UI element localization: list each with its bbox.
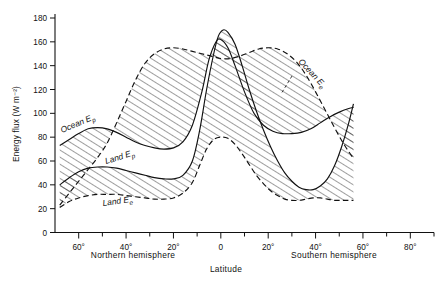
x-tick-label: 80° (404, 243, 416, 252)
y-tick-label: 20 (38, 205, 48, 214)
y-tick-label: 160 (33, 38, 47, 47)
y-tick-label: 40 (38, 181, 48, 190)
energy-flux-chart: 020406080100120140160180 60°40°20°020°40… (0, 0, 438, 283)
x-axis-title: Latitude (210, 264, 242, 274)
x-tick-label: 0 (219, 243, 224, 252)
x-tick-label: 60° (72, 243, 84, 252)
y-tick-label: 100 (33, 109, 47, 118)
y-axis-title: Energy flux (W m⁻²) (12, 86, 21, 162)
northern-hemisphere-label: Northern hemisphere (91, 250, 175, 260)
y-tick-label: 0 (42, 229, 47, 238)
southern-hemisphere-label: Southern hemisphere (291, 250, 377, 260)
y-tick-label: 140 (33, 62, 47, 71)
y-tick-label: 180 (33, 14, 47, 23)
y-tick-label: 80 (38, 133, 48, 142)
y-tick-label: 60 (38, 157, 48, 166)
x-tick-label: 20° (262, 243, 274, 252)
y-tick-label: 120 (33, 86, 47, 95)
